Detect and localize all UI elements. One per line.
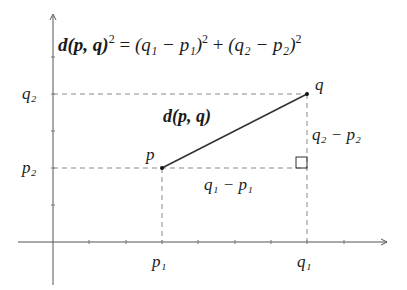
distance-formula: d(p, q)2 = (q₁ − p₁)2 + (q₂ − p₂)2 [58, 32, 301, 56]
point-q [305, 92, 309, 96]
vertical-leg-label: q₂ − p₂ [312, 126, 361, 143]
formula-term1-exponent: 2 [202, 32, 208, 46]
label-q1: q₁ [297, 253, 311, 270]
horizontal-leg-label: q₁ − p₁ [204, 176, 253, 193]
segment-label: d(p, q) [163, 107, 211, 125]
point-p [160, 166, 164, 170]
label-p1: p₁ [152, 253, 166, 270]
formula-plus: + [213, 34, 224, 55]
right-angle-marker-icon [296, 157, 307, 168]
formula-lhs-exponent: 2 [109, 32, 115, 46]
label-p2: p₂ [22, 159, 36, 176]
formula-lhs: d(p, q) [58, 34, 109, 55]
formula-term2: (q₂ − p₂) [228, 34, 295, 55]
label-point-p: p [146, 146, 155, 163]
formula-term2-exponent: 2 [295, 32, 301, 46]
label-point-q: q [315, 76, 324, 93]
formula-term1: (q₁ − p₁) [135, 34, 202, 55]
formula-equals: = [119, 34, 130, 55]
label-q2: q₂ [22, 85, 36, 102]
